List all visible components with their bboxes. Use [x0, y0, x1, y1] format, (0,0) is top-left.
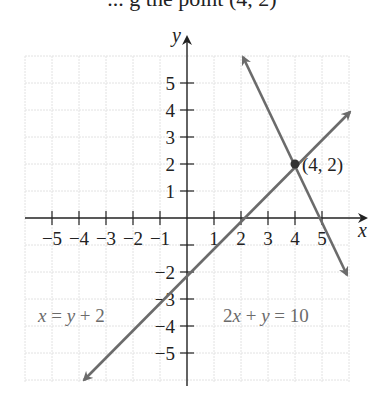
- eq2-plus: +: [241, 305, 261, 326]
- coordinate-plane: −5 −4 −3 −2 −1 1 2 3 4 5 5 4 3 2 1 −2 −3…: [0, 0, 384, 394]
- y-tick-label: 2: [166, 154, 176, 175]
- x-tick-label: −4: [69, 228, 90, 249]
- equation-label-2x-plus-y-equals-10: 2x + y = 10: [223, 305, 309, 326]
- x-tick-label: 3: [263, 228, 273, 249]
- intersection-point-label: (4, 2): [302, 154, 343, 176]
- y-tick-label: 1: [166, 181, 176, 202]
- x-tick-label: −2: [123, 228, 143, 249]
- y-tick-label: −5: [155, 343, 175, 364]
- y-tick-label: 3: [166, 127, 176, 148]
- y-axis-label: y: [170, 24, 181, 47]
- eq2-equals-10: = 10: [270, 305, 309, 326]
- x-tick-label: −5: [42, 228, 62, 249]
- x-axis-label: x: [357, 219, 367, 241]
- y-tick-label: 4: [166, 100, 176, 121]
- y-tick-label: −4: [155, 316, 176, 337]
- eq2-y: y: [259, 305, 270, 326]
- y-tick-label: −2: [155, 262, 175, 283]
- x-tick-label: 4: [290, 228, 300, 249]
- x-tick-labels: −5 −4 −3 −2 −1 1 2 3 4 5: [42, 228, 327, 249]
- eq1-y: y: [65, 305, 76, 326]
- eq2-coef: 2: [223, 305, 233, 326]
- x-tick-label: −1: [150, 228, 170, 249]
- equation-label-x-equals-y-plus-2: x = y + 2: [37, 305, 105, 326]
- x-tick-label: −3: [96, 228, 116, 249]
- intersection-point: [291, 160, 300, 169]
- eq1-equals: =: [46, 305, 66, 326]
- y-tick-label: 5: [166, 73, 176, 94]
- x-tick-label: 2: [236, 228, 246, 249]
- eq1-plus-2: + 2: [75, 305, 105, 326]
